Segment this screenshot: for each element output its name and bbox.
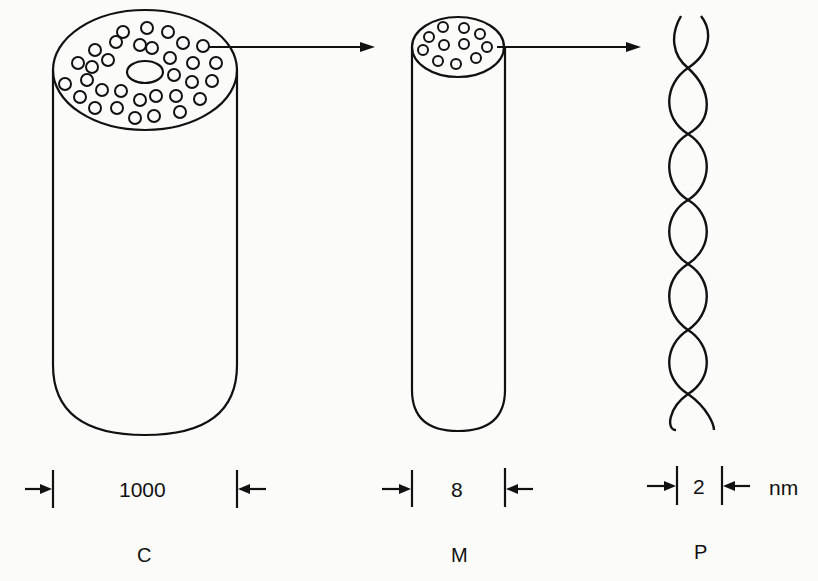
label-c: C xyxy=(137,545,151,565)
arrow-c-to-m xyxy=(209,42,375,52)
central-channel xyxy=(127,61,163,83)
fibril-holes-m xyxy=(418,22,492,69)
dimension-value-m: 8 xyxy=(451,479,463,500)
cylinder-c xyxy=(53,10,237,435)
cylinder-m xyxy=(412,17,505,431)
label-p: P xyxy=(694,542,707,562)
dimension-value-c: 1000 xyxy=(119,479,166,500)
label-m: M xyxy=(451,545,468,565)
unit-label: nm xyxy=(769,477,798,498)
helix-p xyxy=(669,16,714,430)
dimension-value-p: 2 xyxy=(693,476,705,497)
arrow-m-to-p xyxy=(497,42,641,52)
fibril-holes-c xyxy=(59,22,222,124)
